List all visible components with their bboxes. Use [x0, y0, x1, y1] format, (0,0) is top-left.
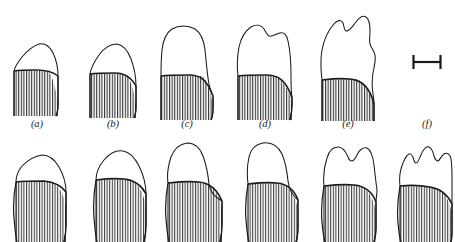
- root-hatch-f2: [396, 182, 455, 242]
- panel-label-e: (e): [328, 118, 368, 129]
- tooth-diagram-b2: [92, 151, 152, 242]
- tooth-diagram-c2: [164, 143, 226, 242]
- panel-label-a: (a): [17, 118, 57, 129]
- scale-bar: [413, 55, 441, 69]
- tooth-diagram-a2: [12, 155, 72, 242]
- tooth-diagram-f2: [396, 147, 455, 242]
- tooth-diagram-d2: [244, 143, 302, 242]
- root-hatch-e2: [320, 180, 380, 242]
- figure-root: (a) (b) (c) (d) (e) (f): [0, 0, 455, 242]
- root-hatch-c2: [164, 177, 226, 242]
- root-hatch-b2: [92, 174, 152, 242]
- panel-label-f: (f): [407, 118, 447, 129]
- tooth-diagram-e: [318, 16, 378, 131]
- tooth-diagram-e2: [320, 147, 380, 242]
- root-hatch-a2: [12, 176, 72, 242]
- panel-label-d: (d): [245, 118, 285, 129]
- tooth-profile-figure: [0, 0, 455, 242]
- tooth-diagram-d: [234, 25, 296, 127]
- tooth-diagram-a: [10, 44, 66, 122]
- root-hatch-b: [86, 69, 142, 125]
- tooth-diagram-b: [86, 44, 142, 125]
- root-hatch-d2: [244, 178, 302, 242]
- panel-label-c: (c): [167, 118, 207, 129]
- tooth-diagram-c: [157, 26, 219, 127]
- panel-label-b: (b): [93, 118, 133, 129]
